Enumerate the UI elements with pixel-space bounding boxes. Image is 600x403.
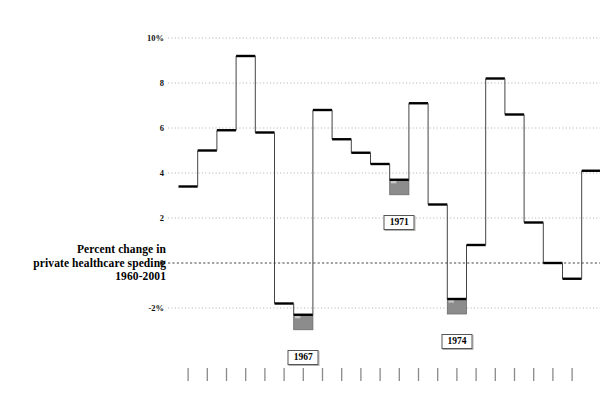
year-annotation-1971[interactable]: 1971	[384, 215, 415, 230]
highlight-gloss-1967	[295, 316, 301, 318]
highlight-gloss-1971	[391, 181, 397, 183]
y-axis-label--2: -2%	[118, 303, 164, 313]
y-axis-label-0: 0	[118, 258, 164, 268]
highlight-gloss-1974	[449, 300, 455, 302]
plot-svg	[0, 0, 600, 403]
gridlines	[168, 38, 600, 308]
y-axis-label-4: 4	[118, 168, 164, 178]
chart-container: Percent change in private healthcare spe…	[0, 0, 600, 403]
highlight-markers	[294, 180, 467, 330]
plot-area	[0, 0, 600, 403]
year-annotation-1974[interactable]: 1974	[441, 334, 472, 349]
y-axis-label-2: 2	[118, 213, 164, 223]
x-axis-ticks	[188, 368, 572, 381]
year-annotation-1967[interactable]: 1967	[288, 350, 319, 365]
y-axis-label-8: 8	[118, 78, 164, 88]
y-axis-label-10: 10%	[118, 33, 164, 43]
data-series-step-line	[179, 56, 600, 315]
y-axis-label-6: 6	[118, 123, 164, 133]
